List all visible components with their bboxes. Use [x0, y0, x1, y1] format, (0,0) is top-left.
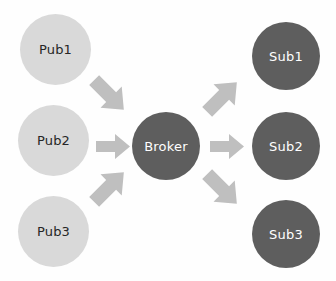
node-sub2-label: Sub2: [269, 140, 303, 153]
node-sub3[interactable]: Sub3: [252, 200, 320, 268]
arrow-pub2-to-broker: [96, 133, 131, 160]
arrow-pub3-to-broker: [86, 166, 132, 208]
node-pub1[interactable]: Pub1: [20, 14, 91, 85]
node-pub3-label: Pub3: [37, 225, 70, 238]
arrow-broker-to-sub1: [199, 76, 245, 118]
arrow-pub1-to-broker: [86, 74, 132, 116]
node-pub1-label: Pub1: [39, 43, 72, 56]
node-sub2[interactable]: Sub2: [252, 112, 320, 180]
node-broker[interactable]: Broker: [132, 112, 200, 180]
arrow-broker-to-sub2: [210, 133, 245, 160]
node-pub3[interactable]: Pub3: [18, 196, 89, 267]
arrow-broker-to-sub3: [199, 168, 245, 210]
diagram-canvas: Pub1 Pub2 Pub3 Broker Sub1 Sub2 Sub3: [0, 0, 336, 281]
node-broker-label: Broker: [144, 140, 188, 153]
node-sub1[interactable]: Sub1: [252, 22, 320, 90]
node-sub3-label: Sub3: [269, 228, 303, 241]
node-pub2-label: Pub2: [37, 134, 70, 147]
node-pub2[interactable]: Pub2: [18, 105, 89, 176]
node-sub1-label: Sub1: [269, 50, 303, 63]
